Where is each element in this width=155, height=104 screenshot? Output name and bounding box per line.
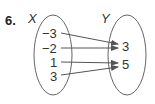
x-element: 3: [50, 69, 57, 84]
x-element: −3: [42, 26, 57, 41]
x-element: 1: [50, 55, 57, 70]
mapping-diagram: 6. X Y −3 −2 1 3 3 5: [0, 0, 155, 104]
set-y-ellipse: [108, 15, 146, 95]
mapping-arrow: [61, 62, 118, 63]
x-element: −2: [42, 41, 57, 56]
set-y-label: Y: [101, 11, 111, 26]
set-x-label: X: [27, 11, 38, 26]
y-element: 3: [122, 39, 129, 54]
problem-number: 6.: [5, 13, 16, 28]
y-element: 5: [122, 57, 129, 72]
